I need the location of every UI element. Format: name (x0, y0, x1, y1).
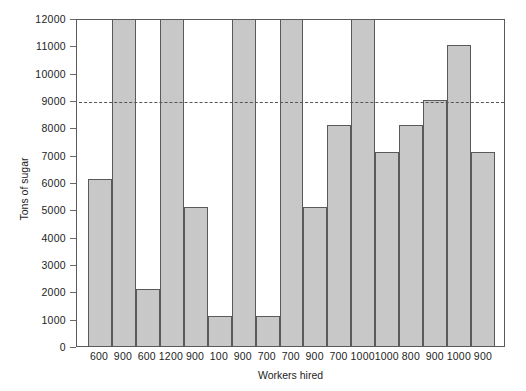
x-axis-tick-label: 1200 (159, 350, 183, 362)
x-axis-tick-label: 900 (471, 350, 495, 362)
x-axis-tick-label: 900 (231, 350, 255, 362)
bar (471, 152, 495, 346)
bar (423, 100, 447, 346)
bar (447, 45, 471, 346)
bar (160, 19, 184, 346)
y-axis-tick-label: 11000 (36, 40, 66, 52)
y-axis-tick-label: 4000 (41, 232, 66, 244)
y-axis-tick-label: 1000 (41, 314, 66, 326)
x-axis-tick-label: 800 (399, 350, 423, 362)
y-axis-tick (70, 347, 76, 348)
bar (232, 19, 256, 346)
bar (184, 207, 208, 346)
y-axis-tick-label: 12000 (35, 13, 66, 25)
y-axis-tick-label: 7000 (41, 150, 66, 162)
x-axis-tick-label: 600 (135, 350, 159, 362)
y-axis-tick-label: 2000 (41, 286, 66, 298)
plot-area (76, 19, 505, 347)
x-axis-tick-label: 100 (207, 350, 231, 362)
bar (351, 19, 375, 346)
x-axis-tick-label: 700 (255, 350, 279, 362)
x-axis-tick-label: 700 (279, 350, 303, 362)
bar (112, 19, 136, 346)
bar (375, 152, 399, 346)
y-axis-title: Tons of sugar (18, 144, 30, 234)
y-axis-tick-label: 10000 (35, 68, 66, 80)
y-axis-tick-label: 5000 (41, 204, 66, 216)
x-axis-tick-label: 1000 (375, 350, 399, 362)
bar (88, 179, 112, 346)
bar (136, 289, 160, 346)
y-axis-tick-label: 9000 (41, 95, 66, 107)
y-axis-tick-label: 8000 (41, 122, 66, 134)
x-axis-tick-label: 700 (327, 350, 351, 362)
x-axis-tick-label: 600 (87, 350, 111, 362)
y-axis-tick-label: 6000 (41, 177, 66, 189)
bars-layer (77, 20, 504, 346)
x-axis-title: Workers hired (76, 369, 505, 381)
x-axis-tick-labels: 6009006001200900100900700700900700100010… (76, 350, 505, 366)
x-axis-tick-label: 900 (303, 350, 327, 362)
y-axis-tick-label: 3000 (41, 259, 66, 271)
x-axis-tick-label: 1000 (447, 350, 471, 362)
x-axis-tick-label: 900 (183, 350, 207, 362)
bar (280, 19, 304, 346)
reference-line (76, 102, 504, 103)
bar (303, 207, 327, 346)
y-axis-tick-label: 0 (60, 341, 66, 353)
x-axis-tick-label: 900 (423, 350, 447, 362)
bar (208, 316, 232, 346)
bar-chart: 0100020003000400050006000700080009000100… (0, 0, 526, 391)
bar (399, 125, 423, 346)
y-axis: 0100020003000400050006000700080009000100… (0, 0, 76, 391)
bar (327, 125, 351, 346)
x-axis-tick-label: 1000 (351, 350, 375, 362)
x-axis-tick-label: 900 (111, 350, 135, 362)
bar (256, 316, 280, 346)
